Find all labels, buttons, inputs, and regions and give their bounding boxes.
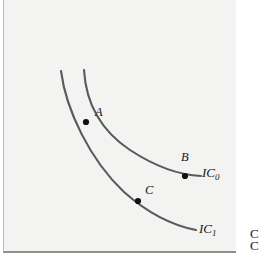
curve-ic1	[61, 71, 196, 230]
curve-ic1-label-text: IC	[199, 221, 212, 236]
curve-ic0-label-subscript: 0	[215, 172, 220, 182]
curve-ic0-label: IC0	[202, 166, 220, 179]
curve-group	[61, 70, 201, 230]
margin-cutoff-text: C C	[250, 228, 264, 252]
margin-text-line-2: C	[250, 240, 264, 252]
curve-ic1-label-subscript: 1	[212, 228, 217, 238]
curve-ic0-label-text: IC	[202, 165, 215, 180]
figure-container: A B C IC0 IC1 C C	[0, 0, 264, 263]
indifference-curve-plot	[0, 0, 264, 263]
point-a-marker	[83, 119, 89, 125]
point-b-marker	[182, 173, 188, 179]
point-b-label: B	[181, 151, 189, 164]
curve-ic1-label: IC1	[199, 222, 217, 235]
point-c-marker	[135, 198, 141, 204]
point-a-label: A	[95, 106, 103, 119]
point-c-label: C	[145, 184, 153, 197]
